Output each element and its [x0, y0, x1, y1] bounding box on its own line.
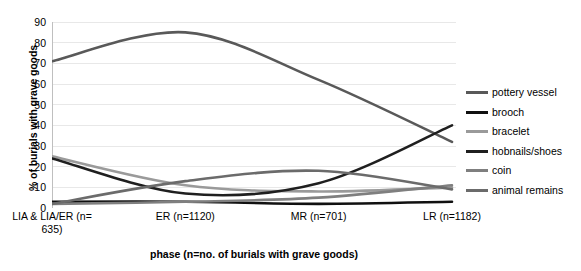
x-tick-label: LR (n=1182)	[400, 210, 504, 223]
x-tick-label-line2: 635)	[0, 223, 104, 236]
plot-area	[52, 22, 456, 208]
line-chart: % of burials with grave goods 9080706050…	[0, 0, 581, 271]
x-tick-label: ER (n=1120)	[133, 210, 237, 223]
y-tick-label: 30	[20, 141, 46, 151]
y-tick-label: 70	[20, 58, 46, 68]
legend-label: coin	[492, 165, 511, 176]
legend-item[interactable]: bracelet	[466, 122, 581, 142]
y-tick-label: 20	[20, 162, 46, 172]
y-tick-label: 10	[20, 182, 46, 192]
legend-item[interactable]: pottery vessel	[466, 83, 581, 103]
legend-item[interactable]: animal remains	[466, 181, 581, 201]
legend-item[interactable]: hobnails/shoes	[466, 142, 581, 162]
legend-item[interactable]: coin	[466, 161, 581, 181]
legend-swatch-icon	[466, 111, 488, 114]
series-line	[52, 125, 452, 195]
x-axis-tick-labels: LIA & LIA/ER (n=635)ER (n=1120)MR (n=701…	[52, 210, 456, 250]
legend-swatch-icon	[466, 169, 488, 172]
x-tick-label: MR (n=701)	[267, 210, 371, 223]
y-tick-label: 50	[20, 100, 46, 110]
legend-swatch-icon	[466, 189, 488, 192]
plot-svg	[52, 22, 456, 208]
legend: pottery vesselbroochbracelethobnails/sho…	[466, 83, 581, 200]
legend-label: bracelet	[492, 126, 529, 137]
legend-label: brooch	[492, 107, 524, 118]
y-tick-label: 60	[20, 79, 46, 89]
legend-swatch-icon	[466, 150, 488, 153]
legend-swatch-icon	[466, 130, 488, 133]
legend-swatch-icon	[466, 91, 488, 94]
x-tick-label: LIA & LIA/ER (n=635)	[0, 210, 104, 236]
legend-label: animal remains	[492, 185, 563, 196]
legend-label: hobnails/shoes	[492, 146, 562, 157]
legend-item[interactable]: brooch	[466, 103, 581, 123]
y-tick-label: 80	[20, 38, 46, 48]
y-tick-label: 40	[20, 120, 46, 130]
y-tick-label: 90	[20, 17, 46, 27]
legend-label: pottery vessel	[492, 87, 557, 98]
x-axis-title: phase (n=no. of burials with grave goods…	[52, 248, 456, 260]
